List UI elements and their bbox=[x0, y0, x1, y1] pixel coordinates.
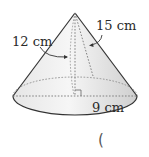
height-label: 12 cm bbox=[12, 35, 52, 48]
slant-height-label: 15 cm bbox=[96, 19, 136, 32]
answer-blank-paren: ( bbox=[98, 133, 104, 148]
radius-label: 9 cm bbox=[92, 101, 124, 114]
